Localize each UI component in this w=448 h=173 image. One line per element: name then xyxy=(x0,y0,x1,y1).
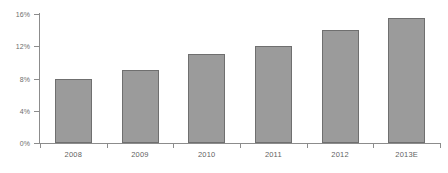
y-axis-tick xyxy=(34,111,39,112)
x-axis-tick xyxy=(373,144,374,148)
y-axis-tick xyxy=(34,143,39,144)
x-axis-tick xyxy=(40,144,41,148)
x-axis-labels: 200820092010201120122013E xyxy=(40,150,440,159)
y-axis-tick-label: 0% xyxy=(20,140,30,147)
y-axis-tick-label: 4% xyxy=(20,107,30,114)
x-axis-tick xyxy=(240,144,241,148)
y-axis-tick xyxy=(34,46,39,47)
x-axis-tick-label: 2012 xyxy=(307,150,374,159)
bar-series xyxy=(40,14,440,143)
bar-slot xyxy=(173,14,240,143)
y-axis-tick-label: 12% xyxy=(16,43,30,50)
x-axis-tick-label: 2009 xyxy=(107,150,174,159)
bar xyxy=(122,70,159,143)
y-axis-tick xyxy=(34,79,39,80)
x-axis-tick xyxy=(440,144,441,148)
bar-slot xyxy=(373,14,440,143)
bar xyxy=(322,30,359,143)
bar-slot xyxy=(40,14,107,143)
bar xyxy=(55,79,92,144)
bar xyxy=(388,18,425,143)
bar-chart: 0%4%8%12%16% 200820092010201120122013E xyxy=(0,0,448,173)
bar-slot xyxy=(307,14,374,143)
x-axis-tick-label: 2010 xyxy=(173,150,240,159)
x-axis-tick xyxy=(173,144,174,148)
x-axis-tick-label: 2013E xyxy=(373,150,440,159)
bar-slot xyxy=(107,14,174,143)
bar xyxy=(255,46,292,143)
x-axis-tick-label: 2011 xyxy=(240,150,307,159)
bar-slot xyxy=(240,14,307,143)
y-axis-tick xyxy=(34,14,39,15)
y-axis-tick-label: 8% xyxy=(20,75,30,82)
x-axis-tick xyxy=(307,144,308,148)
y-axis-tick-label: 16% xyxy=(16,11,30,18)
x-axis-tick-label: 2008 xyxy=(40,150,107,159)
bar xyxy=(188,54,225,143)
x-axis-tick xyxy=(107,144,108,148)
